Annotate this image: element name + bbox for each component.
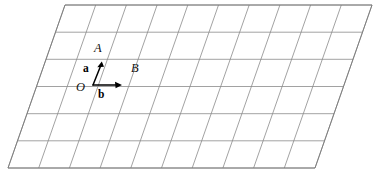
- lattice-grid-svg: [0, 0, 377, 175]
- point-label-A: A: [94, 42, 102, 55]
- vector-a-arrowhead: [97, 62, 104, 68]
- vector-label-a: a: [83, 63, 89, 75]
- lattice-figure: A B O a b: [0, 0, 377, 175]
- point-label-O: O: [76, 81, 85, 94]
- vector-label-b: b: [98, 89, 104, 101]
- point-label-B: B: [131, 62, 139, 75]
- vector-b-arrowhead: [115, 82, 122, 88]
